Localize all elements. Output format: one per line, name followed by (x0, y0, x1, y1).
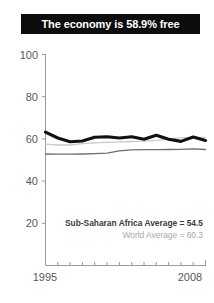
x-tick-label-start: 1995 (33, 271, 57, 283)
line-chart-svg: 100 80 60 40 20 (0, 40, 214, 303)
chart-plot-area: 100 80 60 40 20 (0, 40, 214, 303)
y-tick-label-20: 20 (26, 217, 38, 229)
economy-freedom-chart-card: The economy is 58.9% free 100 80 60 40 2… (0, 0, 214, 303)
x-tick-label-end: 2008 (178, 271, 202, 283)
page-title: The economy is 58.9% free (41, 18, 179, 30)
chart-title-banner: The economy is 58.9% free (21, 14, 200, 34)
legend-region-average-label: Sub-Saharan Africa Average = 54.5 (65, 218, 203, 228)
series-line-country (46, 132, 206, 142)
y-tick-label-100: 100 (20, 49, 38, 61)
series-line-region-average (46, 149, 206, 154)
y-tick-label-80: 80 (26, 91, 38, 103)
x-tick-marks (46, 260, 206, 266)
legend-world-average-label: World Average = 60.3 (123, 230, 204, 240)
y-tick-marks (42, 55, 46, 224)
y-tick-label-40: 40 (26, 175, 38, 187)
y-tick-label-60: 60 (26, 133, 38, 145)
